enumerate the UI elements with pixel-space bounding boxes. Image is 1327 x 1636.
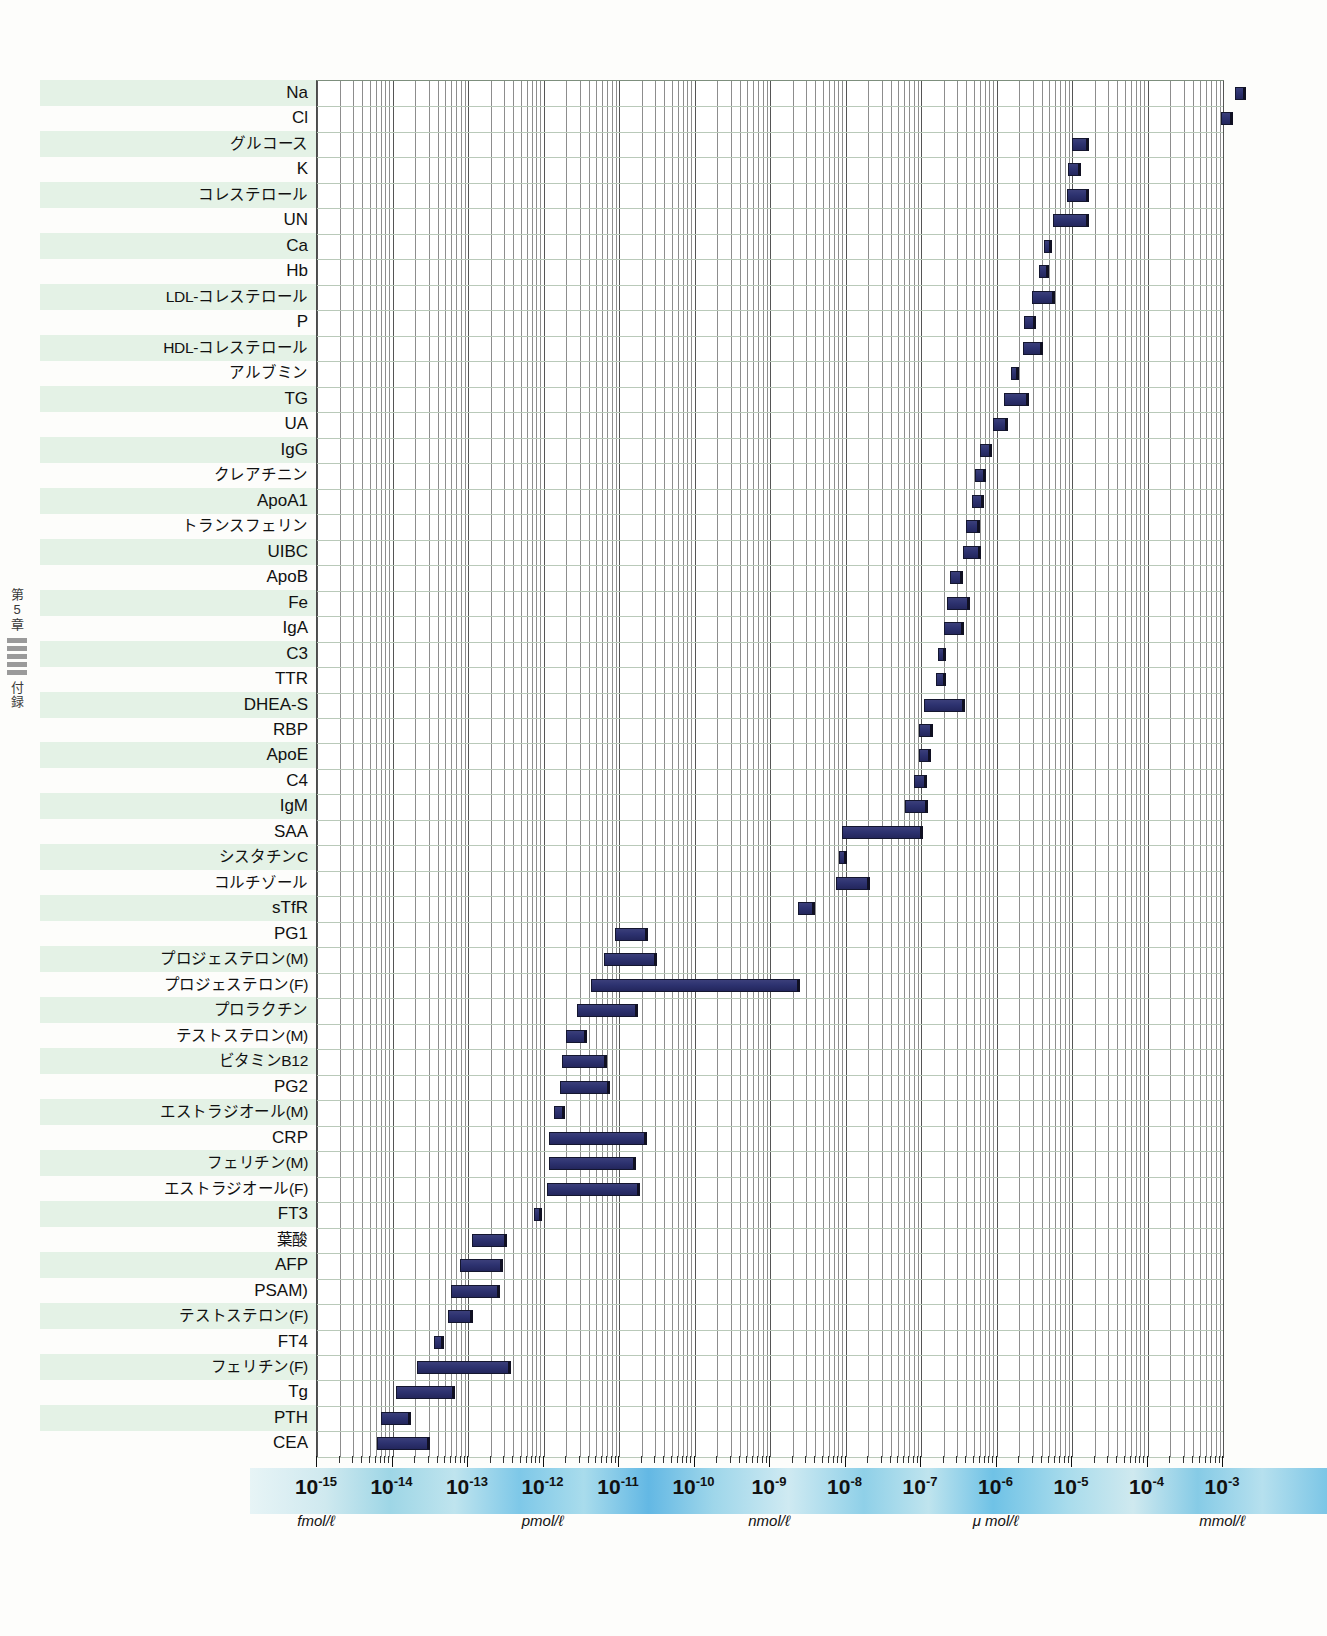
axis-tick-minor bbox=[535, 1456, 536, 1463]
page-canvas: 第5章 付録 NaClグルコースKコレステロールUNCaHbLDL-コレステロー… bbox=[0, 0, 1327, 1636]
range-bar bbox=[472, 1234, 507, 1247]
range-bar bbox=[562, 1055, 607, 1068]
row-separator bbox=[317, 1100, 1223, 1101]
axis-tick-minor bbox=[460, 1456, 461, 1463]
row-separator bbox=[317, 871, 1223, 872]
axis-tick-minor bbox=[654, 1456, 655, 1463]
axis-tick-minor bbox=[956, 1456, 957, 1463]
category-label: CEA bbox=[273, 1430, 308, 1456]
range-bar bbox=[451, 1285, 499, 1298]
range-bar bbox=[1023, 342, 1043, 355]
axis-tick-minor bbox=[1032, 1456, 1033, 1463]
axis-tick-minor bbox=[1124, 1456, 1125, 1463]
range-bar bbox=[1024, 316, 1035, 329]
axis-tick-minor bbox=[833, 1456, 834, 1463]
range-bar bbox=[842, 826, 923, 839]
axis-tick-minor bbox=[881, 1456, 882, 1463]
axis-tick-minor bbox=[601, 1456, 602, 1463]
axis-tick-minor bbox=[903, 1456, 904, 1463]
axis-tick-minor bbox=[1143, 1456, 1144, 1463]
row-separator bbox=[317, 183, 1223, 184]
category-label: IgA bbox=[282, 615, 308, 641]
axis-tick-minor bbox=[913, 1456, 914, 1463]
row-separator bbox=[317, 1431, 1223, 1432]
category-label: Ca bbox=[286, 233, 308, 259]
range-bar bbox=[950, 571, 963, 584]
axis-tick-minor bbox=[588, 1456, 589, 1463]
axis-tick-major bbox=[1147, 1456, 1148, 1467]
row-separator bbox=[317, 540, 1223, 541]
range-bar bbox=[554, 1106, 565, 1119]
axis-tick-major bbox=[769, 1456, 770, 1467]
axis-tick-major bbox=[618, 1456, 619, 1467]
row-separator bbox=[317, 208, 1223, 209]
axis-tick-minor bbox=[988, 1456, 989, 1463]
axis-unit-label: mmol/ℓ bbox=[1199, 1512, 1245, 1529]
row-separator bbox=[317, 616, 1223, 617]
row-separator bbox=[317, 642, 1223, 643]
axis-tick-minor bbox=[805, 1456, 806, 1463]
concentration-range-chart: NaClグルコースKコレステロールUNCaHbLDL-コレステロールPHDL-コ… bbox=[0, 0, 1327, 1636]
axis-tick-minor bbox=[917, 1456, 918, 1463]
range-bar bbox=[1039, 265, 1050, 278]
row-separator bbox=[317, 718, 1223, 719]
axis-tick-minor bbox=[746, 1456, 747, 1463]
axis-tick-minor bbox=[762, 1456, 763, 1463]
category-label: トランスフェリン bbox=[182, 513, 308, 539]
axis-tick-minor bbox=[841, 1456, 842, 1463]
row-separator bbox=[317, 412, 1223, 413]
axis-tick-minor bbox=[1059, 1456, 1060, 1463]
axis-tick-minor bbox=[520, 1456, 521, 1463]
category-label: PTH bbox=[274, 1405, 308, 1431]
axis-exponent-label: 10-6 bbox=[978, 1474, 1013, 1499]
category-label: フェリチン(F) bbox=[211, 1354, 308, 1380]
row-separator bbox=[317, 973, 1223, 974]
axis-tick-minor bbox=[943, 1456, 944, 1463]
category-label: コルチゾール bbox=[214, 870, 308, 896]
row-separator bbox=[317, 489, 1223, 490]
axis-tick-minor bbox=[1205, 1456, 1206, 1463]
row-separator bbox=[317, 285, 1223, 286]
axis-tick-minor bbox=[1018, 1456, 1019, 1463]
axis-tick-minor bbox=[1107, 1456, 1108, 1463]
axis-exponent-label: 10-14 bbox=[370, 1474, 412, 1499]
axis-tick-major bbox=[996, 1456, 997, 1467]
row-separator bbox=[317, 1126, 1223, 1127]
category-label: FT3 bbox=[278, 1201, 308, 1227]
range-bar bbox=[1004, 393, 1029, 406]
range-bar bbox=[1072, 138, 1089, 151]
category-label: UN bbox=[283, 207, 308, 233]
range-bar bbox=[1011, 367, 1019, 380]
category-label: テストステロン(M) bbox=[176, 1023, 308, 1049]
axis-tick-minor bbox=[503, 1456, 504, 1463]
axis-tick-major bbox=[543, 1456, 544, 1467]
row-separator bbox=[317, 438, 1223, 439]
category-label: Fe bbox=[288, 590, 308, 616]
category-label: FT4 bbox=[278, 1329, 308, 1355]
axis-tick-minor bbox=[369, 1456, 370, 1463]
category-label: C4 bbox=[286, 768, 308, 794]
range-bar bbox=[604, 953, 657, 966]
row-separator bbox=[317, 1380, 1223, 1381]
category-label: シスタチンC bbox=[219, 844, 308, 870]
axis-tick-minor bbox=[1094, 1456, 1095, 1463]
category-label: PSAM) bbox=[254, 1278, 308, 1304]
axis-tick-minor bbox=[1116, 1456, 1117, 1463]
row-separator bbox=[317, 1253, 1223, 1254]
axis-exponent-label: 10-11 bbox=[597, 1474, 638, 1499]
axis-tick-minor bbox=[464, 1456, 465, 1463]
axis-tick-minor bbox=[739, 1456, 740, 1463]
axis-tick-minor bbox=[890, 1456, 891, 1463]
category-label: P bbox=[297, 309, 308, 335]
range-bar bbox=[1068, 163, 1081, 176]
category-label: フェリチン(M) bbox=[207, 1150, 308, 1176]
row-separator bbox=[317, 1406, 1223, 1407]
axis-tick-minor bbox=[361, 1456, 362, 1463]
axis-tick-minor bbox=[414, 1456, 415, 1463]
axis-tick-minor bbox=[352, 1456, 353, 1463]
axis-tick-minor bbox=[792, 1456, 793, 1463]
axis-unit-label: μ mol/ℓ bbox=[973, 1512, 1019, 1529]
row-separator bbox=[317, 794, 1223, 795]
axis-tick-minor bbox=[1041, 1456, 1042, 1463]
axis-tick-minor bbox=[444, 1456, 445, 1463]
